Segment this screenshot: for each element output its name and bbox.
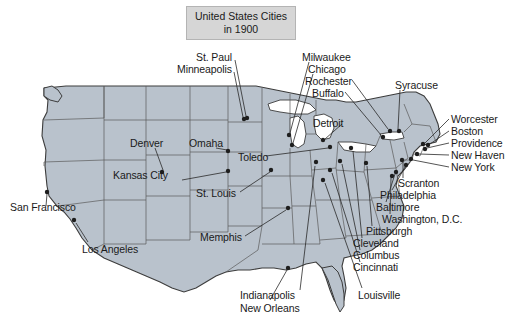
city-label[interactable]: Rochester: [305, 76, 352, 88]
city-label[interactable]: Pittsburgh: [366, 226, 412, 238]
city-dot[interactable]: [364, 161, 368, 165]
city-dot[interactable]: [390, 174, 394, 178]
city-dot[interactable]: [426, 143, 430, 147]
city-label[interactable]: St. Paul: [196, 52, 232, 64]
city-label[interactable]: Louisville: [358, 290, 400, 302]
city-label[interactable]: Denver: [130, 138, 163, 150]
map-title-line2: in 1900: [187, 23, 295, 36]
city-label[interactable]: Toledo: [238, 152, 268, 164]
city-dot[interactable]: [404, 163, 408, 167]
city-label[interactable]: Chicago: [308, 64, 346, 76]
city-dot[interactable]: [328, 168, 332, 172]
city-label[interactable]: Worcester: [451, 114, 498, 126]
city-label[interactable]: Kansas City: [113, 170, 168, 182]
city-dot[interactable]: [321, 178, 325, 182]
city-dot[interactable]: [226, 169, 230, 173]
city-dot[interactable]: [226, 149, 230, 153]
city-label[interactable]: St. Louis: [196, 188, 236, 200]
city-label[interactable]: San Francisco: [10, 202, 76, 214]
city-label[interactable]: New Haven: [451, 150, 504, 162]
city-label[interactable]: Columbus: [353, 250, 399, 262]
leader-line: [413, 160, 449, 167]
city-dot[interactable]: [423, 147, 427, 151]
city-label[interactable]: Cincinnati: [353, 262, 398, 274]
city-label[interactable]: Philadelphia: [380, 190, 436, 202]
city-dot[interactable]: [286, 206, 290, 210]
city-label[interactable]: Milwaukee: [302, 52, 351, 64]
city-label[interactable]: Baltimore: [376, 202, 419, 214]
city-label[interactable]: Memphis: [200, 232, 242, 244]
map-title-line1: United States Cities: [187, 10, 295, 23]
city-dot[interactable]: [388, 129, 392, 133]
city-dot[interactable]: [290, 143, 294, 147]
city-label[interactable]: New Orleans: [240, 303, 300, 315]
city-dot[interactable]: [400, 158, 404, 162]
city-dot[interactable]: [338, 159, 342, 163]
city-dot[interactable]: [286, 266, 290, 270]
city-dot[interactable]: [242, 117, 246, 121]
city-dot[interactable]: [421, 142, 425, 146]
city-dot[interactable]: [72, 218, 76, 222]
city-label[interactable]: Detroit: [313, 118, 343, 130]
map-title-box: United States Cities in 1900: [186, 6, 296, 40]
us-cities-1900-map: United States Cities in 1900 St. PaulMin…: [0, 0, 512, 328]
city-label[interactable]: Minneapolis: [177, 64, 232, 76]
city-label[interactable]: Buffalo: [312, 88, 344, 100]
city-dot[interactable]: [269, 168, 273, 172]
city-label[interactable]: Indianapolis: [240, 290, 295, 302]
city-dot[interactable]: [321, 138, 325, 142]
city-dot[interactable]: [415, 152, 419, 156]
city-dot[interactable]: [381, 135, 385, 139]
city-dot[interactable]: [314, 160, 318, 164]
map-graphic: [0, 0, 512, 328]
city-label[interactable]: Washington, D.C.: [382, 214, 462, 226]
city-dot[interactable]: [328, 145, 332, 149]
city-dot[interactable]: [349, 146, 353, 150]
city-label[interactable]: Scranton: [398, 178, 439, 190]
city-label[interactable]: Cleveland: [353, 238, 399, 250]
city-label[interactable]: Boston: [451, 126, 483, 138]
city-label[interactable]: New York: [451, 162, 495, 174]
city-dot[interactable]: [397, 129, 401, 133]
city-dot[interactable]: [287, 133, 291, 137]
city-dot[interactable]: [409, 157, 413, 161]
city-label[interactable]: Providence: [451, 138, 503, 150]
city-label[interactable]: Syracuse: [395, 80, 438, 92]
city-label[interactable]: Omaha: [189, 138, 223, 150]
city-label[interactable]: Los Angeles: [82, 244, 138, 256]
city-dot[interactable]: [394, 170, 398, 174]
city-dot[interactable]: [45, 190, 49, 194]
leader-line: [419, 154, 449, 155]
